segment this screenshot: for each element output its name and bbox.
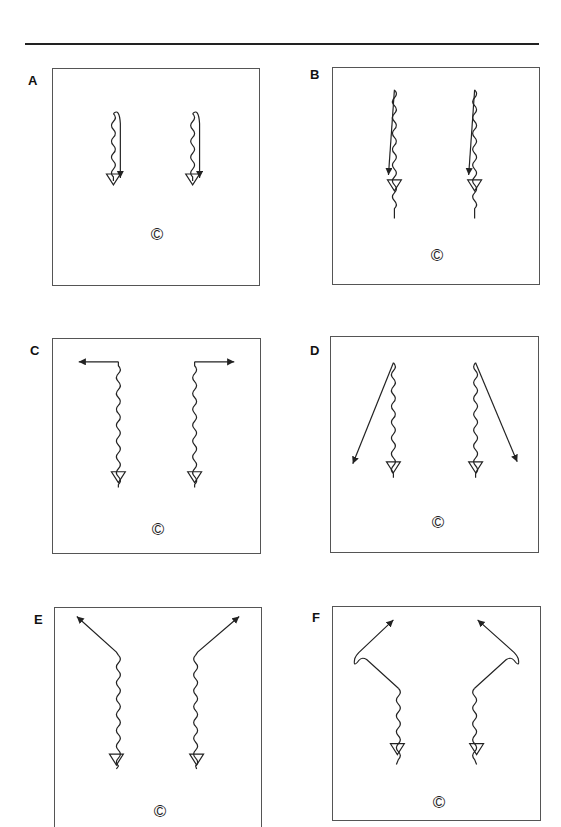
header-rule [25,43,539,45]
coach-icon: © [432,514,445,531]
player-run-right [190,616,240,769]
panel-label-d: D [310,343,319,358]
player-run-right [470,620,519,765]
player-run-left [354,620,404,765]
panel-f: © [332,606,541,821]
player-run-left [106,112,120,185]
panel-d: © [330,336,539,553]
panel-label-c: C [30,343,39,358]
panel-b: © [332,67,540,285]
panel-c: © [52,338,261,554]
player-run-right [188,362,235,488]
coach-icon: © [151,226,164,243]
coach-icon: © [152,521,165,538]
panel-a: © [52,68,260,286]
panel-label-e: E [34,612,43,627]
panel-e: © [54,607,262,827]
drill-diagram-a [53,69,259,285]
coach-icon: © [154,803,167,820]
player-run-right [186,112,200,185]
player-run-left [353,363,401,478]
panel-label-f: F [312,610,320,625]
panel-label-b: B [310,67,319,82]
coach-icon: © [431,247,444,264]
player-run-left [79,362,126,488]
coach-icon: © [433,794,446,811]
panel-label-a: A [28,73,37,88]
drill-diagram-e [55,608,261,827]
player-run-right [468,90,482,219]
player-run-left [387,90,401,219]
drill-diagram-f [333,607,540,820]
player-run-right [469,363,518,478]
player-run-left [77,616,124,769]
